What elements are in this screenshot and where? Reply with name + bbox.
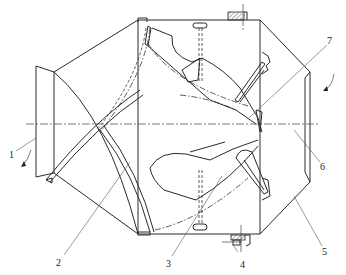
label-4: 4 [240,259,245,270]
label-5: 5 [322,246,327,257]
label-1: 1 [9,149,14,160]
top-bolt-block [228,4,247,30]
mechanical-diagram: 1 2 3 4 5 6 7 [0,0,346,275]
rotation-arrow-left [21,150,31,167]
rotor-sweep-lines [97,26,248,230]
lower-blade [150,140,270,230]
inlet-flange [36,66,54,177]
bottom-bolt-block [222,225,250,252]
leader-lines [16,45,327,256]
outlet-cone [260,20,310,234]
label-2: 2 [56,257,61,268]
inlet-cone [54,18,147,234]
label-6: 6 [320,161,325,172]
label-7: 7 [327,35,332,46]
label-3: 3 [166,258,171,269]
rotation-arrow-right [323,74,334,91]
